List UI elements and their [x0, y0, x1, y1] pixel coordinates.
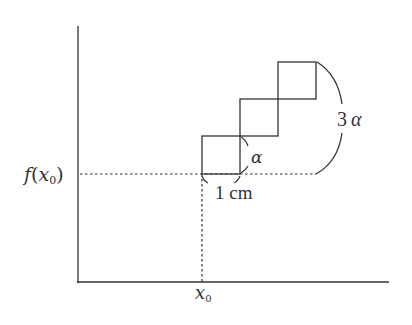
y-axis-label: f(x0): [22, 163, 64, 187]
total-height-label: 3α: [337, 108, 362, 130]
total-brace-top: [317, 62, 342, 104]
square-2: [240, 99, 278, 136]
square-1: [202, 136, 240, 174]
side-alpha-label: α: [251, 147, 263, 167]
side-brace-top: [241, 137, 248, 146]
width-brace-left: [202, 176, 208, 183]
square-3: [278, 62, 316, 99]
diagram-canvas: f(x0) x0 α 3α 1 cm: [0, 0, 412, 325]
width-label: 1 cm: [215, 182, 253, 203]
total-brace-bottom: [316, 133, 342, 174]
side-brace-bottom: [241, 166, 248, 173]
x-axis-label: x0: [195, 282, 212, 304]
